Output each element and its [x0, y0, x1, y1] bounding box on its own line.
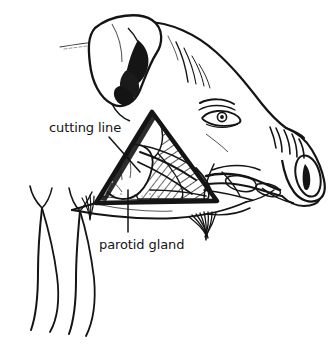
- label-cutting-line: cutting line: [49, 120, 121, 135]
- label-parotid-gland: parotid gland: [99, 237, 184, 252]
- anatomy-illustration: [0, 0, 336, 354]
- pig-head-dissection-figure: cutting line parotid gland: [0, 0, 336, 354]
